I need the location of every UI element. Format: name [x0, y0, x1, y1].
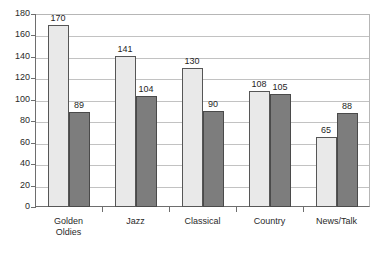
bar-value-label: 104	[131, 85, 162, 94]
bar-value-label: 141	[110, 45, 141, 54]
bar	[249, 91, 270, 207]
bar-group: 17089	[35, 14, 102, 207]
bar	[136, 96, 157, 208]
bar-chart: 020406080100120140160180 170891411041309…	[0, 0, 383, 258]
y-axis-tick-label: 40	[0, 159, 30, 168]
bar-group: 13090	[169, 14, 236, 207]
x-axis-category-label: Classical	[169, 216, 236, 227]
bar	[203, 111, 224, 208]
bar-group: 6588	[303, 14, 370, 207]
bar	[316, 137, 337, 207]
y-axis-tick-label: 20	[0, 181, 30, 190]
x-axis-labels: Golden OldiesJazzClassicalCountryNews/Ta…	[35, 216, 370, 256]
bar	[69, 112, 90, 207]
bar	[337, 113, 358, 207]
x-axis-tick-mark	[169, 207, 170, 212]
x-axis-tick-mark	[236, 207, 237, 212]
y-axis-tick-label: 120	[0, 73, 30, 82]
bar-value-label: 130	[177, 57, 208, 66]
x-axis-category-label: Jazz	[102, 216, 169, 227]
bar-value-label: 105	[265, 83, 296, 92]
bar-group: 141104	[102, 14, 169, 207]
bar-value-label: 90	[198, 100, 229, 109]
y-axis-tick-label: 140	[0, 52, 30, 61]
y-axis-tick-label: 0	[0, 202, 30, 211]
bars-layer: 17089141104130901081056588	[35, 14, 370, 207]
x-axis-category-label: News/Talk	[303, 216, 370, 227]
bar-group: 108105	[236, 14, 303, 207]
x-axis-category-label: Country	[236, 216, 303, 227]
y-axis-tick-label: 100	[0, 95, 30, 104]
category-tick-marks	[35, 207, 370, 213]
bar	[115, 56, 136, 207]
bar	[182, 68, 203, 207]
x-axis-tick-mark	[102, 207, 103, 212]
y-axis-tick-label: 80	[0, 116, 30, 125]
y-axis-tick-label: 160	[0, 30, 30, 39]
y-axis-tick-label: 180	[0, 9, 30, 18]
bar	[48, 25, 69, 207]
y-axis-tick-label: 60	[0, 138, 30, 147]
bar-value-label: 88	[332, 102, 363, 111]
x-axis-category-label: Golden Oldies	[35, 216, 102, 238]
bar-value-label: 89	[64, 101, 95, 110]
bar-value-label: 170	[43, 14, 74, 23]
x-axis-tick-mark	[303, 207, 304, 212]
bar	[270, 94, 291, 207]
